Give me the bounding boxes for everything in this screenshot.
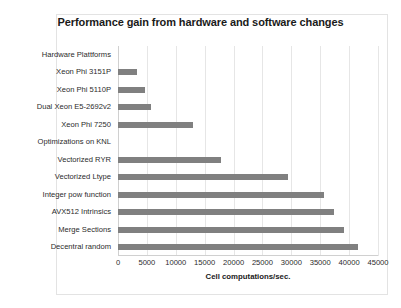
bar [118, 192, 324, 198]
bar-series [118, 46, 378, 256]
chart-title: Performance gain from hardware and softw… [0, 16, 401, 28]
bar [118, 227, 344, 233]
category-label: Vectorized Ltype [55, 172, 111, 181]
category-label: Vectorized RYR [58, 155, 111, 164]
category-label: AVX512 Intrinsics [52, 207, 111, 216]
x-tick-label: 25000 [252, 258, 273, 267]
x-tick-label: 5000 [138, 258, 155, 267]
category-label: Decentral random [51, 242, 111, 251]
bar [118, 209, 334, 215]
category-label: Xeon Phi 5110P [57, 85, 111, 94]
bar [118, 174, 288, 180]
bar [118, 104, 151, 110]
gridline [378, 46, 379, 256]
x-tick-label: 20000 [223, 258, 244, 267]
bar [118, 69, 137, 75]
bar [118, 157, 221, 163]
x-tick-label: 45000 [367, 258, 388, 267]
x-tick-label: 15000 [194, 258, 215, 267]
x-tick-label: 30000 [281, 258, 302, 267]
category-label: Xeon Phi 7250 [61, 120, 111, 129]
category-label: Optimizations on KNL [38, 137, 111, 146]
bar [118, 244, 358, 250]
x-axis-title: Cell computations/sec. [118, 272, 378, 281]
x-tick-label: 35000 [310, 258, 331, 267]
x-axis-tick-labels: 0500010000150002000025000300003500040000… [118, 258, 378, 270]
category-axis-labels: Hardware PlattformsXeon Phi 3151PXeon Ph… [0, 46, 115, 256]
x-tick-label: 40000 [339, 258, 360, 267]
category-label: Hardware Plattforms [42, 50, 111, 59]
x-tick-label: 0 [116, 258, 120, 267]
category-label: Merge Sections [58, 225, 111, 234]
category-label: Integer pow function [43, 190, 111, 199]
x-tick-label: 10000 [165, 258, 186, 267]
plot-area [118, 46, 378, 256]
category-label: Xeon Phi 3151P [56, 67, 111, 76]
bar [118, 122, 193, 128]
bar [118, 87, 145, 93]
category-label: Dual Xeon E5-2692v2 [37, 102, 111, 111]
